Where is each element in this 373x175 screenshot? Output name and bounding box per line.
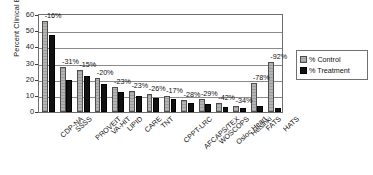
legend-label-treatment: % Treatment (309, 67, 350, 74)
legend-label-control: % Control (309, 56, 341, 63)
chart-legend: % Control % Treatment (296, 50, 368, 80)
legend-item-control: % Control (300, 54, 364, 65)
bar-chart: Percent Clinical Events 0102030405060 -1… (0, 0, 373, 175)
legend-item-treatment: % Treatment (300, 65, 364, 76)
legend-swatch-control-icon (300, 56, 307, 63)
x-tick-label: TNT (159, 115, 174, 130)
x-tick-label: HATS (282, 115, 301, 133)
legend-swatch-treatment-icon (300, 67, 307, 74)
x-axis-tick-labels: CDP-NASSSSPROVEITVA-HITLIPIDCARETNTCPPT-… (0, 0, 373, 175)
